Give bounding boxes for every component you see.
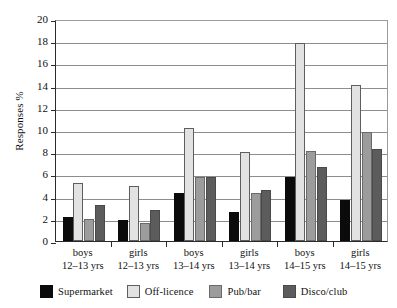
- bar-group: [112, 21, 168, 241]
- bar-supermarket: [118, 220, 128, 241]
- y-tick-label: 6: [22, 169, 48, 180]
- plot-area: [55, 20, 388, 242]
- legend-item[interactable]: Pub/bar: [209, 285, 260, 298]
- legend-label: Off-licence: [145, 286, 194, 297]
- bar-pub-bar: [362, 132, 372, 241]
- legend-swatch-icon: [283, 285, 296, 298]
- bar-off-licence: [129, 186, 139, 242]
- bar-disco-club: [261, 190, 271, 241]
- bar-off-licence: [184, 128, 194, 241]
- bar-supermarket: [174, 193, 184, 241]
- y-tick-label: 18: [22, 36, 48, 47]
- bar-pub-bar: [84, 219, 94, 241]
- bar-disco-club: [206, 177, 216, 241]
- x-group-label-line2: 14–15 yrs: [325, 260, 395, 273]
- legend-swatch-icon: [40, 285, 53, 298]
- bar-pub-bar: [195, 177, 205, 241]
- y-tick-label: 8: [22, 147, 48, 158]
- legend-item[interactable]: Disco/club: [283, 285, 348, 298]
- bar-supermarket: [285, 177, 295, 241]
- legend-label: Supermarket: [58, 286, 113, 297]
- bar-disco-club: [95, 205, 105, 241]
- y-tick-label: 4: [22, 192, 48, 203]
- bar-group: [223, 21, 279, 241]
- y-tick-label: 12: [22, 103, 48, 114]
- bar-supermarket: [340, 200, 350, 241]
- bar-off-licence: [295, 43, 305, 241]
- x-group-label: girls14–15 yrs: [325, 247, 395, 272]
- bar-off-licence: [351, 85, 361, 242]
- bar-disco-club: [317, 167, 327, 241]
- bar-supermarket: [229, 212, 239, 241]
- y-tick-label: 10: [22, 125, 48, 136]
- bar-chart: Responses % 20181614121086420 boys12–13 …: [0, 0, 397, 308]
- y-axis-title: Responses %: [13, 61, 25, 181]
- bar-pub-bar: [140, 223, 150, 241]
- legend-label: Disco/club: [301, 286, 348, 297]
- x-group-label-line1: girls: [325, 247, 395, 260]
- y-tick-label: 14: [22, 81, 48, 92]
- bar-pub-bar: [306, 151, 316, 241]
- legend-item[interactable]: Off-licence: [127, 285, 194, 298]
- bar-disco-club: [372, 149, 382, 241]
- legend-swatch-icon: [127, 285, 140, 298]
- y-tick-label: 0: [22, 236, 48, 247]
- bar-group: [278, 21, 334, 241]
- bar-supermarket: [63, 217, 73, 241]
- bar-group: [56, 21, 112, 241]
- bar-group: [334, 21, 390, 241]
- y-tick-label: 20: [22, 14, 48, 25]
- legend-item[interactable]: Supermarket: [40, 285, 113, 298]
- y-tick-label: 16: [22, 58, 48, 69]
- bar-off-licence: [240, 152, 250, 241]
- y-tick-label: 2: [22, 214, 48, 225]
- y-tick-mark: [51, 243, 56, 244]
- chart-legend: SupermarketOff-licencePub/barDisco/club: [40, 281, 370, 301]
- legend-swatch-icon: [209, 285, 222, 298]
- legend-label: Pub/bar: [227, 286, 260, 297]
- bar-pub-bar: [251, 193, 261, 241]
- bar-group: [167, 21, 223, 241]
- bar-disco-club: [150, 210, 160, 241]
- bar-off-licence: [73, 183, 83, 241]
